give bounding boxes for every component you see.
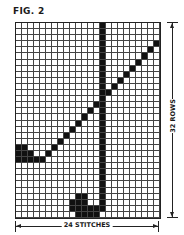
stitches-dimension-marker: 24 STITCHES [15, 222, 159, 232]
stitch-cell [154, 212, 160, 218]
stitch-chart-grid [15, 22, 161, 219]
dimension-cap-bottom [167, 217, 178, 218]
rows-label: 32 ROWS [169, 99, 177, 133]
rows-dimension-marker: 32 ROWS [168, 22, 178, 218]
dimension-cap-right [158, 221, 159, 232]
stitches-label: 24 STITCHES [62, 221, 113, 229]
figure-title: FIG. 2 [13, 6, 45, 16]
